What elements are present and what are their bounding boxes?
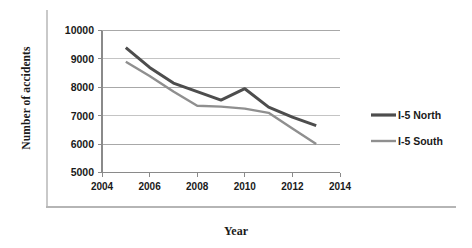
gridlines-group xyxy=(98,31,340,173)
x-tick-labels-group: 200420062008201020122014 xyxy=(91,173,352,192)
y-tick-label: 10000 xyxy=(65,24,94,36)
y-tick-label: 7000 xyxy=(71,110,95,122)
legend-group: I-5 NorthI-5 South xyxy=(371,109,443,147)
y-tick-label: 6000 xyxy=(71,138,95,150)
plot-area: 5000600070008000900010000 20042006200820… xyxy=(0,0,472,248)
y-tick-labels-group: 5000600070008000900010000 xyxy=(65,24,94,178)
x-tick-label: 2006 xyxy=(138,181,161,192)
series-line-i-5-south xyxy=(126,62,316,144)
y-tick-label: 9000 xyxy=(71,53,95,65)
line-chart-figure: Number of accidents Year 500060007000800… xyxy=(0,0,472,248)
x-tick-label: 2012 xyxy=(281,181,304,192)
x-tick-label: 2010 xyxy=(234,181,257,192)
data-series-group xyxy=(126,48,316,145)
legend-label-1: I-5 North xyxy=(398,109,441,121)
x-tick-label: 2008 xyxy=(186,181,209,192)
y-tick-label: 5000 xyxy=(71,166,95,178)
legend-label-2: I-5 South xyxy=(398,135,443,147)
y-tick-label: 8000 xyxy=(71,81,95,93)
x-tick-label: 2014 xyxy=(329,181,352,192)
x-tick-label: 2004 xyxy=(91,181,114,192)
